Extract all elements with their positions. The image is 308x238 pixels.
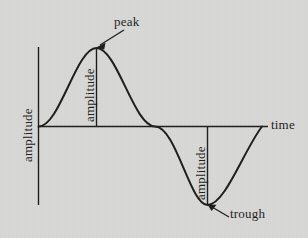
sine-wave-diagram: peak time trough amplitude amplitude amp… bbox=[0, 0, 308, 238]
peak-arrow-shaft bbox=[100, 30, 124, 45]
peak-label: peak bbox=[114, 15, 139, 28]
amplitude-label-trough: amplitude bbox=[194, 146, 207, 200]
trough-arrow-head bbox=[208, 205, 217, 212]
trough-label: trough bbox=[230, 207, 265, 220]
amplitude-axis-label: amplitude bbox=[21, 108, 34, 162]
trough-arrow-shaft bbox=[212, 207, 229, 217]
amplitude-label-peak: amplitude bbox=[83, 68, 96, 122]
diagram-canvas bbox=[0, 0, 308, 238]
time-axis-label: time bbox=[271, 118, 295, 131]
